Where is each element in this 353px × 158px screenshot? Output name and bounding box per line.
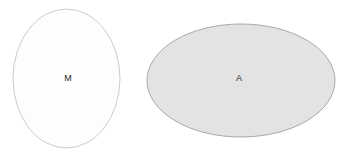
ellipse-m-label: M [64,73,72,83]
shape-group-a[interactable]: A [147,24,335,137]
ellipse-a-label: A [236,73,242,83]
shape-group-m[interactable]: M [13,9,120,148]
diagram-canvas: M A [0,0,353,158]
